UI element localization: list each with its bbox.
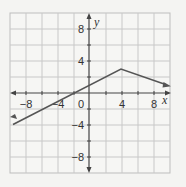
coordinate-plane: −8 −4 0 4 8 8 4 −4 −8 y x xyxy=(0,0,186,187)
x-tick-label: 8 xyxy=(151,98,157,110)
y-tick-label: −8 xyxy=(71,151,84,163)
x-axis-label: x xyxy=(161,93,168,107)
y-tick-label: −4 xyxy=(71,119,84,131)
origin-label: 0 xyxy=(78,98,84,110)
y-tick-label: 8 xyxy=(78,23,84,35)
y-axis-label: y xyxy=(93,15,100,29)
y-tick-label: 4 xyxy=(78,55,84,67)
x-tick-label: 4 xyxy=(119,98,125,110)
x-tick-label: −8 xyxy=(20,98,33,110)
